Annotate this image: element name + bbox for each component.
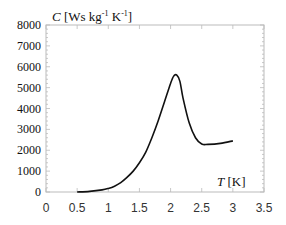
y-tick-label: 4000	[17, 102, 41, 116]
x-tick-label: 0	[43, 201, 50, 215]
plot-frame	[46, 25, 264, 192]
x-axis-title: T [K]	[217, 174, 246, 189]
data-line	[77, 75, 233, 192]
y-tick-label: 3000	[17, 122, 41, 136]
x-tick-label: 1	[105, 201, 112, 215]
y-axis-title: C [Ws kg-1 K-1]	[52, 9, 132, 24]
y-tick-label: 1000	[17, 164, 41, 178]
x-tick-label: 3	[230, 201, 237, 215]
y-tick-label: 7000	[17, 39, 41, 53]
y-tick-label: 2000	[17, 143, 41, 157]
y-tick-label: 0	[35, 185, 41, 199]
y-tick-label: 8000	[17, 18, 41, 32]
x-tick-label: 2.5	[193, 201, 210, 215]
y-axis-ticks: 010002000300040005000600070008000	[17, 18, 264, 199]
chart: 010002000300040005000600070008000 00.511…	[0, 0, 286, 225]
y-tick-label: 6000	[17, 60, 41, 74]
x-tick-label: 1.5	[131, 201, 148, 215]
x-tick-label: 3.5	[256, 201, 273, 215]
x-tick-label: 2	[167, 201, 174, 215]
y-tick-label: 5000	[17, 81, 41, 95]
x-tick-label: 0.5	[69, 201, 86, 215]
